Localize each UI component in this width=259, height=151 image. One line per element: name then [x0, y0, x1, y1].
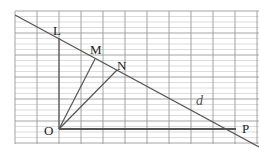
label-M: M [90, 42, 102, 57]
segment-ON [59, 70, 117, 129]
label-O: O [44, 123, 53, 138]
label-P: P [242, 121, 249, 136]
label-L: L [53, 23, 61, 38]
segment-OM [59, 59, 95, 129]
label-N: N [117, 58, 127, 73]
label-line-d: d [196, 93, 204, 108]
geometry-diagram: L M N O P d [0, 0, 259, 151]
